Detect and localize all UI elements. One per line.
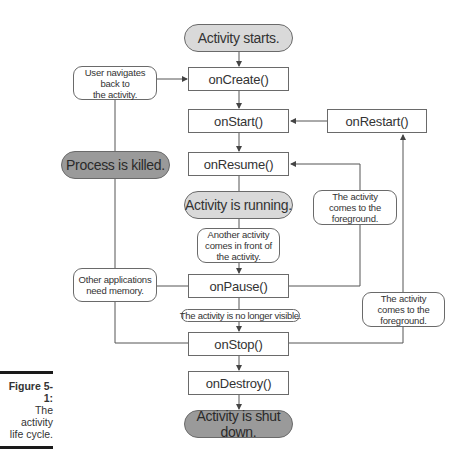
edge-onpause-onresume xyxy=(289,164,360,286)
edge-onstop-otherapps xyxy=(115,302,188,343)
activity-lifecycle-diagram: Activity starts. Activity is running. Pr… xyxy=(0,0,466,458)
callback-onrestart: onRestart() xyxy=(327,109,427,133)
note-user-navigates-back: User navigates back to the activity. xyxy=(73,66,157,100)
note-other-apps-memory: Other applications need memory. xyxy=(73,268,157,302)
state-activity-running: Activity is running. xyxy=(184,191,293,219)
callback-onresume: onResume() xyxy=(188,152,289,176)
note-foreground-resume: The activity comes to the foreground. xyxy=(313,190,397,225)
note-no-longer-visible: The activity is no longer visible. xyxy=(181,309,300,322)
state-process-killed: Process is killed. xyxy=(61,151,170,179)
state-activity-shutdown: Activity is shut down. xyxy=(184,410,293,438)
caption-line-2: life cycle. xyxy=(0,428,53,440)
note-foreground-restart: The activity comes to the foreground. xyxy=(362,292,445,327)
callback-onstart: onStart() xyxy=(188,109,289,133)
state-activity-starts: Activity starts. xyxy=(184,24,293,52)
callback-ondestroy: onDestroy() xyxy=(188,371,289,395)
caption-text: Figure 5-1: The activity life cycle. xyxy=(0,374,53,446)
caption-bottom-rule xyxy=(0,446,53,449)
note-another-activity: Another activity comes in front of the a… xyxy=(197,228,280,263)
callback-onpause: onPause() xyxy=(188,274,289,298)
caption-line-1: The activity xyxy=(0,404,53,428)
callback-oncreate: onCreate() xyxy=(188,67,289,91)
figure-caption: Figure 5-1: The activity life cycle. xyxy=(0,371,53,449)
callback-onstop: onStop() xyxy=(188,332,289,356)
caption-title: Figure 5-1: xyxy=(0,380,53,404)
